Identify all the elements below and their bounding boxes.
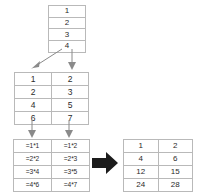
- results-table: 1 2 4 6 12 15 24 28: [123, 139, 193, 192]
- formula-cell: =3*4: [14, 166, 52, 179]
- formula-cell: =4*7: [52, 179, 90, 192]
- formula-cell: =1*2: [52, 140, 90, 153]
- operand-cell: 2: [15, 86, 52, 99]
- result-cell: 6: [158, 153, 193, 166]
- table-row: 1 2: [124, 140, 193, 153]
- operand-cell: 2: [52, 73, 89, 86]
- operand-cell: 1: [15, 73, 52, 86]
- split-arrow-diagonal-line: [37, 49, 62, 65]
- result-cell: 15: [158, 166, 193, 179]
- split-arrow-diagonal-head: [31, 61, 40, 69]
- table-row: 2: [49, 17, 86, 29]
- result-cell: 28: [158, 179, 193, 192]
- result-cell: 1: [124, 140, 159, 153]
- table-row: =3*4 =3*5: [14, 166, 90, 179]
- operand-cell: 3: [52, 86, 89, 99]
- split-arrow-vertical-head: [68, 62, 76, 70]
- source-cell: 3: [49, 29, 86, 41]
- formulas-table: =1*1 =1*2 =2*2 =2*3 =3*4 =3*5 =4*6 =4*7: [13, 139, 90, 192]
- table-row: =4*6 =4*7: [14, 179, 90, 192]
- operands-table: 1 2 2 3 4 5 6 7: [14, 72, 89, 125]
- table-row: 24 28: [124, 179, 193, 192]
- operand-cell: 5: [52, 99, 89, 112]
- diagram-canvas: 1 2 3 4 1 2 2: [0, 0, 198, 195]
- table-row: 1: [49, 6, 86, 18]
- source-cell: 1: [49, 6, 86, 18]
- operand-cell: 4: [15, 99, 52, 112]
- table-row: 4 6: [124, 153, 193, 166]
- source-cell: 2: [49, 17, 86, 29]
- formula-cell: =2*2: [14, 153, 52, 166]
- table-row: 4 5: [15, 99, 89, 112]
- table-row: 12 15: [124, 166, 193, 179]
- result-cell: 4: [124, 153, 159, 166]
- evaluate-arrow-icon: [92, 152, 118, 174]
- formula-cell: =1*1: [14, 140, 52, 153]
- formula-cell: =3*5: [52, 166, 90, 179]
- formula-cell: =4*6: [14, 179, 52, 192]
- fill-down-arrow-right-head: [65, 130, 73, 138]
- evaluate-arrow-shape: [92, 152, 118, 174]
- result-cell: 12: [124, 166, 159, 179]
- formula-cell: =2*3: [52, 153, 90, 166]
- split-arrows: [28, 48, 88, 72]
- table-row: =2*2 =2*3: [14, 153, 90, 166]
- table-row: 2 3: [15, 86, 89, 99]
- result-cell: 24: [124, 179, 159, 192]
- fill-down-arrow-left-head: [28, 130, 36, 138]
- fill-down-arrows: [22, 120, 82, 140]
- table-row: 3: [49, 29, 86, 41]
- result-cell: 2: [158, 140, 193, 153]
- table-row: =1*1 =1*2: [14, 140, 90, 153]
- table-row: 1 2: [15, 73, 89, 86]
- source-table: 1 2 3 4: [48, 5, 86, 53]
